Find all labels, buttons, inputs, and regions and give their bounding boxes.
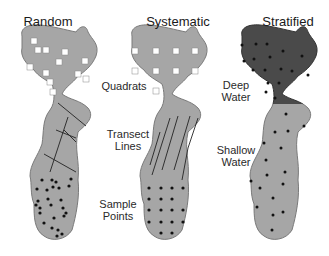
label-shallow-line-2: Water (214, 156, 258, 168)
label-quadrats: Quadrats (96, 80, 152, 92)
label-shallow-line-1: Shallow (214, 144, 258, 156)
label-deep-line-2: Water (218, 91, 254, 103)
label-transect-lines: Transect Lines (100, 128, 156, 152)
stratified-panel (241, 25, 318, 240)
label-deep-line-1: Deep (218, 79, 254, 91)
label-deep-water: Deep Water (218, 79, 254, 103)
label-transect-line-1: Transect (100, 128, 156, 140)
label-transect-line-2: Lines (100, 140, 156, 152)
panel-title-random: Random (8, 14, 88, 29)
label-shallow-water: Shallow Water (214, 144, 258, 168)
label-sample-line-2: Points (90, 210, 146, 222)
sampling-diagram (0, 0, 329, 256)
label-sample-line-1: Sample (90, 198, 146, 210)
label-sample-points: Sample Points (90, 198, 146, 222)
panel-title-systematic: Systematic (138, 14, 218, 29)
lake-shape (22, 25, 97, 240)
random-panel (22, 25, 97, 240)
panel-title-stratified: Stratified (248, 14, 328, 29)
